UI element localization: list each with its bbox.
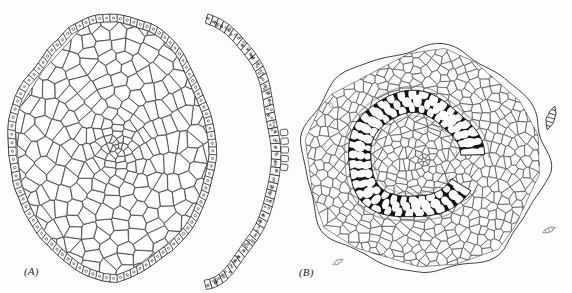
panel-label-b: (B) xyxy=(299,266,314,278)
panel-b-drawing xyxy=(300,43,558,272)
figure-root: (A) (B) xyxy=(0,0,572,293)
panel-label-a: (A) xyxy=(24,265,39,277)
panel-a-drawing xyxy=(8,14,289,290)
anatomy-figure-svg xyxy=(0,0,572,293)
